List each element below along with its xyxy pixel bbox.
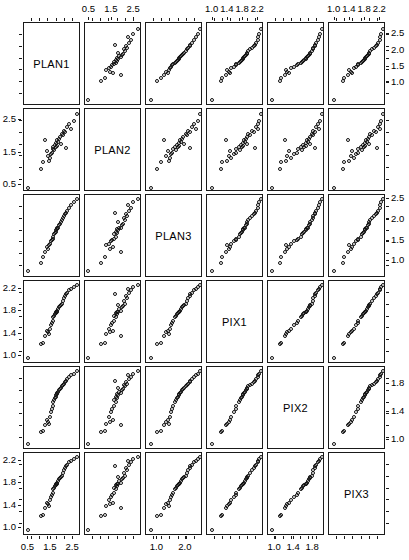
axis-tick (19, 523, 22, 524)
axis-tick (117, 536, 118, 539)
data-point (332, 356, 336, 360)
axis-tick (161, 536, 162, 539)
data-point (188, 146, 192, 150)
data-point (75, 455, 79, 459)
axis-tick (386, 155, 389, 156)
axis-label-left: 1.0 (3, 350, 16, 360)
data-point (64, 292, 68, 296)
axis-label-right: 1.0 (391, 434, 404, 444)
data-point (352, 327, 356, 331)
axis-tick (212, 17, 213, 20)
axis-tick (108, 18, 109, 21)
data-point (108, 502, 112, 506)
point-layer (207, 23, 262, 104)
data-point (119, 334, 123, 338)
data-point (64, 211, 68, 215)
axis-tick (19, 253, 22, 254)
data-point (342, 160, 346, 164)
diagonal-panel-pix1: PIX1 (206, 280, 263, 363)
axis-tick (19, 464, 22, 465)
data-point (375, 379, 379, 383)
axis-tick (386, 439, 389, 440)
axis-tick (19, 34, 22, 35)
axis-tick (18, 288, 21, 289)
axis-tick (222, 536, 223, 539)
data-point (229, 156, 233, 160)
data-point (220, 513, 224, 517)
point-layer (146, 23, 201, 104)
data-point (220, 76, 224, 80)
axis-tick (386, 260, 389, 261)
scatter-panel-plan2-vs-pix3 (84, 452, 141, 535)
data-point (167, 504, 171, 508)
data-point (159, 160, 163, 164)
axis-label-top: 2.2 (251, 4, 264, 14)
data-point (129, 206, 133, 210)
data-point (131, 285, 135, 289)
axis-tick (386, 69, 389, 70)
axis-label-top: 1.8 (357, 4, 370, 14)
axis-tick (386, 167, 389, 168)
data-point (289, 327, 293, 331)
axis-tick (214, 18, 215, 21)
axis-tick (178, 536, 179, 539)
data-point (375, 43, 379, 47)
axis-label-bottom: 1.0 (268, 542, 281, 552)
data-point (188, 43, 192, 47)
axis-tick (300, 536, 301, 539)
data-point (374, 130, 378, 134)
data-point (162, 334, 166, 338)
data-point (196, 119, 200, 123)
data-point (108, 70, 112, 74)
data-point (86, 356, 90, 360)
axis-tick (19, 241, 22, 242)
data-point (346, 73, 350, 77)
data-point (342, 76, 346, 80)
axis-tick (386, 253, 389, 254)
axis-tick (19, 351, 22, 352)
axis-tick (386, 219, 389, 220)
data-point (47, 332, 51, 336)
axis-tick (386, 265, 389, 266)
data-point (159, 341, 163, 345)
data-point (252, 130, 256, 134)
axis-tick (19, 402, 22, 403)
scatter-panel-plan1-vs-pix3 (23, 452, 80, 535)
data-point (126, 203, 130, 207)
diagonal-label: PIX2 (268, 402, 323, 414)
axis-tick (19, 46, 22, 47)
data-point (47, 504, 51, 508)
axis-tick (111, 17, 112, 20)
axis-tick (19, 144, 22, 145)
scatter-panel-pix3-vs-plan1 (328, 22, 385, 105)
data-point (284, 159, 288, 163)
axis-tick (386, 50, 389, 51)
data-point (171, 319, 175, 323)
data-point (313, 43, 317, 47)
data-point (41, 429, 45, 433)
diagonal-label: PLAN3 (146, 230, 201, 242)
axis-tick (169, 536, 170, 539)
data-point (342, 255, 346, 259)
axis-tick (230, 18, 231, 21)
point-layer (24, 367, 79, 448)
data-point (182, 142, 186, 146)
axis-tick (334, 17, 335, 20)
axis-tick (19, 390, 22, 391)
data-point (379, 119, 383, 123)
scatter-panel-pix2-vs-pix1 (267, 280, 324, 363)
data-point (198, 455, 201, 459)
axis-tick (161, 18, 162, 21)
axis-tick (361, 536, 362, 539)
scatter-panel-pix2-vs-plan2 (267, 108, 324, 191)
data-point (43, 250, 47, 254)
axis-tick (386, 476, 389, 477)
data-point (107, 415, 111, 419)
axis-tick (336, 536, 337, 539)
axis-tick (19, 425, 22, 426)
axis-tick (275, 18, 276, 21)
data-point (253, 43, 257, 47)
data-point (48, 415, 52, 419)
axis-tick (47, 18, 48, 21)
axis-label-right: 1.8 (391, 379, 404, 389)
